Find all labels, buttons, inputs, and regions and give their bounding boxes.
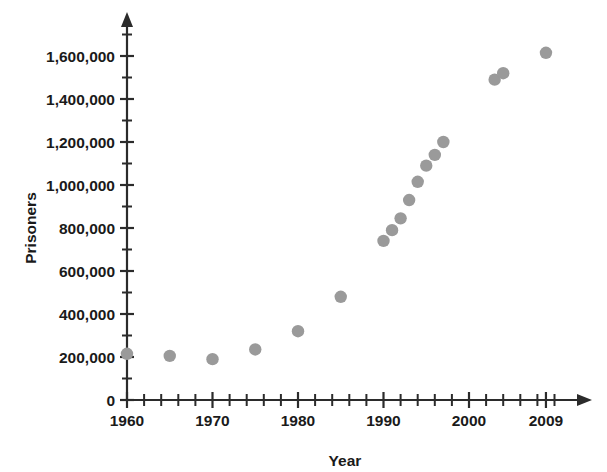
data-point	[437, 136, 449, 148]
x-axis-tick-label: 2009	[529, 412, 564, 429]
data-point	[429, 149, 441, 161]
x-axis	[127, 392, 592, 408]
x-axis-title: Year	[329, 452, 362, 469]
data-point	[377, 235, 389, 247]
data-point	[249, 343, 261, 355]
x-axis-arrow-icon	[577, 394, 592, 406]
data-point	[386, 224, 398, 236]
y-axis-tick-label: 200,000	[59, 349, 115, 366]
y-axis-tick-label: 1,200,000	[46, 134, 115, 151]
data-point	[206, 353, 218, 365]
x-axis-tick-labels: 196019701980199020002009	[110, 412, 564, 429]
y-axis-tick-label: 1,400,000	[46, 91, 115, 108]
data-point	[292, 325, 304, 337]
y-axis	[120, 12, 134, 400]
data-points	[121, 47, 552, 366]
data-point	[540, 47, 552, 59]
x-axis-tick-label: 1960	[110, 412, 144, 429]
y-axis-title: Prisoners	[22, 192, 39, 264]
y-axis-arrow-icon	[121, 12, 133, 27]
y-axis-tick-label: 400,000	[59, 306, 115, 323]
data-point	[164, 350, 176, 362]
data-point	[121, 348, 133, 360]
data-point	[420, 159, 432, 171]
y-axis-tick-label: 800,000	[59, 220, 115, 237]
chart-canvas: 0200,000400,000600,000800,0001,000,0001,…	[0, 0, 607, 472]
data-point	[497, 67, 509, 79]
x-axis-tick-label: 1980	[281, 412, 315, 429]
data-point	[335, 291, 347, 303]
y-axis-tick-label: 600,000	[59, 263, 115, 280]
x-axis-tick-label: 1970	[195, 412, 229, 429]
y-axis-tick-label: 0	[106, 392, 115, 409]
x-axis-tick-label: 1990	[366, 412, 400, 429]
data-point	[403, 194, 415, 206]
data-point	[412, 176, 424, 188]
y-axis-tick-labels: 0200,000400,000600,000800,0001,000,0001,…	[46, 48, 115, 409]
scatter-chart: 0200,000400,000600,000800,0001,000,0001,…	[0, 0, 607, 472]
y-axis-tick-label: 1,000,000	[46, 177, 115, 194]
y-axis-tick-label: 1,600,000	[46, 48, 115, 65]
x-axis-tick-label: 2000	[452, 412, 486, 429]
data-point	[394, 212, 406, 224]
